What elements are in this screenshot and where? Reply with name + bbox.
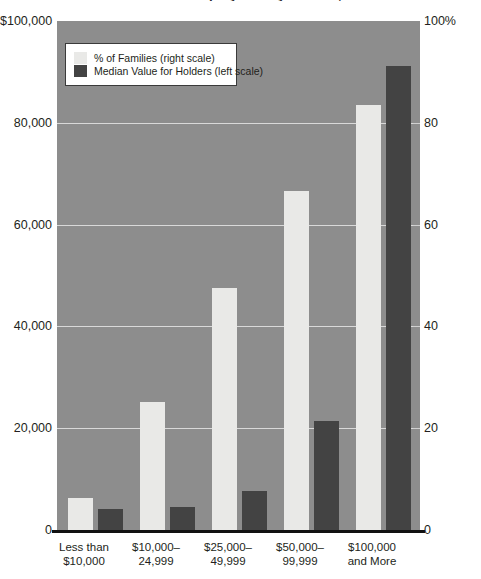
y-left-tick-20000: 20,000 xyxy=(0,421,52,435)
legend-swatch-light xyxy=(74,52,87,64)
y-left-tick-80000: 80,000 xyxy=(0,116,52,130)
y-right-tick-20: 20 xyxy=(424,421,476,435)
x-category-2-line1: $10,000– xyxy=(118,541,194,555)
x-category-5-line2: and More xyxy=(334,555,410,569)
x-category-3-line2: 49,999 xyxy=(190,555,266,569)
bar-median-5 xyxy=(386,66,411,530)
y-left-tick-60000: 60,000 xyxy=(0,218,52,232)
x-category-1-line2: $10,000 xyxy=(46,555,122,569)
x-category-2-line2: 24,999 xyxy=(118,555,194,569)
x-category-label-3: $25,000– 49,999 xyxy=(190,541,266,568)
legend-label-median: Median Value for Holders (left scale) xyxy=(94,65,263,77)
chart-figure: Stock Ownership by Family Income, 1995 %… xyxy=(0,0,481,579)
x-category-4-line2: 99,999 xyxy=(262,555,338,569)
y-right-tick-100: 100% xyxy=(424,14,476,28)
bar-median-1 xyxy=(98,509,123,530)
bar-median-4 xyxy=(314,421,339,530)
chart-legend: % of Families (right scale) Median Value… xyxy=(65,43,237,86)
x-category-5-line1: $100,000 xyxy=(334,541,410,555)
y-right-tick-60: 60 xyxy=(424,218,476,232)
bar-families-4 xyxy=(284,191,309,530)
legend-swatch-dark xyxy=(74,65,87,77)
y-right-tick-80: 80 xyxy=(424,116,476,130)
chart-title: Stock Ownership by Family Income, 1995 xyxy=(0,0,481,1)
y-right-mark-40 xyxy=(413,326,420,327)
y-right-mark-60 xyxy=(413,225,420,226)
x-category-1-line1: Less than xyxy=(46,541,122,555)
y-right-mark-80 xyxy=(413,123,420,124)
y-left-tick-100000: $100,000 xyxy=(0,14,52,28)
y-right-tick-40: 40 xyxy=(424,319,476,333)
x-axis-line xyxy=(52,530,425,533)
legend-item-median: Median Value for Holders (left scale) xyxy=(74,65,228,77)
x-category-label-2: $10,000– 24,999 xyxy=(118,541,194,568)
x-category-label-4: $50,000– 99,999 xyxy=(262,541,338,568)
legend-item-families: % of Families (right scale) xyxy=(74,52,228,64)
bar-median-2 xyxy=(170,507,195,530)
y-left-tick-40000: 40,000 xyxy=(0,319,52,333)
x-category-3-line1: $25,000– xyxy=(190,541,266,555)
y-right-mark-20 xyxy=(413,428,420,429)
bar-families-2 xyxy=(140,402,165,530)
y-left-tick-0: 0 xyxy=(0,523,52,537)
x-category-label-5: $100,000 and More xyxy=(334,541,410,568)
bar-families-5 xyxy=(356,105,381,530)
legend-label-families: % of Families (right scale) xyxy=(94,52,215,64)
plot-area: % of Families (right scale) Median Value… xyxy=(57,21,420,530)
x-category-4-line1: $50,000– xyxy=(262,541,338,555)
x-category-label-1: Less than $10,000 xyxy=(46,541,122,568)
bar-families-1 xyxy=(68,498,93,530)
bar-families-3 xyxy=(212,288,237,530)
bar-median-3 xyxy=(242,491,267,530)
y-right-tick-0: 0 xyxy=(424,523,476,537)
